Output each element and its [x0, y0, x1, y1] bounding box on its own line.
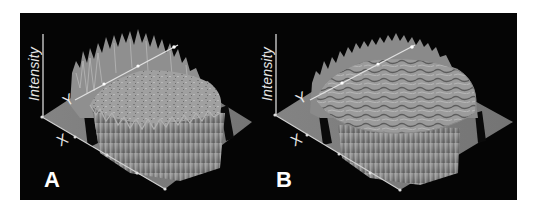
- panel-b-plot: [273, 33, 513, 192]
- panel-b-intensity-label: Intensity: [259, 47, 275, 101]
- panel-a-plot: [40, 29, 252, 191]
- figure-panel: Intensity Y X A Intensity Y X B: [20, 13, 517, 200]
- panel-a-intensity-label: Intensity: [26, 47, 42, 101]
- panel-a-label: A: [44, 167, 60, 193]
- surface-plots: [20, 13, 517, 200]
- panel-b-label: B: [276, 167, 292, 193]
